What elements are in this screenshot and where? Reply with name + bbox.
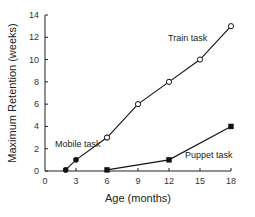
data-point bbox=[197, 57, 202, 62]
x-axis-title: Age (months) bbox=[105, 192, 171, 204]
y-tick-label: 6 bbox=[34, 99, 39, 109]
x-tick-label: 0 bbox=[42, 176, 47, 186]
y-tick-label: 14 bbox=[29, 10, 39, 20]
annotation-puppet-task: Puppet task bbox=[185, 150, 233, 160]
annotation-train-task: Train task bbox=[168, 33, 208, 43]
x-tick-label: 18 bbox=[226, 176, 236, 186]
data-point bbox=[73, 157, 79, 163]
data-point bbox=[63, 167, 69, 173]
y-tick-label: 8 bbox=[34, 77, 39, 87]
y-axis-title: Maximum Retention (weeks) bbox=[6, 23, 18, 162]
series-puppet-task bbox=[104, 124, 233, 173]
x-tick-label: 6 bbox=[104, 176, 109, 186]
x-tick-label: 15 bbox=[195, 176, 205, 186]
x-tick-label: 9 bbox=[135, 176, 140, 186]
annotation-mobile-task: Mobile task bbox=[55, 139, 101, 149]
data-point bbox=[166, 79, 171, 84]
y-tick-label: 12 bbox=[29, 32, 39, 42]
x-tick-label: 3 bbox=[73, 176, 78, 186]
data-point bbox=[104, 135, 109, 140]
data-point bbox=[104, 167, 109, 172]
y-tick-label: 10 bbox=[29, 55, 39, 65]
data-point bbox=[135, 102, 140, 107]
x-tick-label: 12 bbox=[164, 176, 174, 186]
data-point bbox=[228, 124, 233, 129]
y-tick-label: 0 bbox=[34, 166, 39, 176]
y-tick-label: 4 bbox=[34, 121, 39, 131]
line-chart: 024681012140369121518 Mobile task Train … bbox=[0, 0, 255, 217]
y-tick-label: 2 bbox=[34, 144, 39, 154]
data-point bbox=[166, 157, 171, 162]
data-point bbox=[228, 24, 233, 29]
